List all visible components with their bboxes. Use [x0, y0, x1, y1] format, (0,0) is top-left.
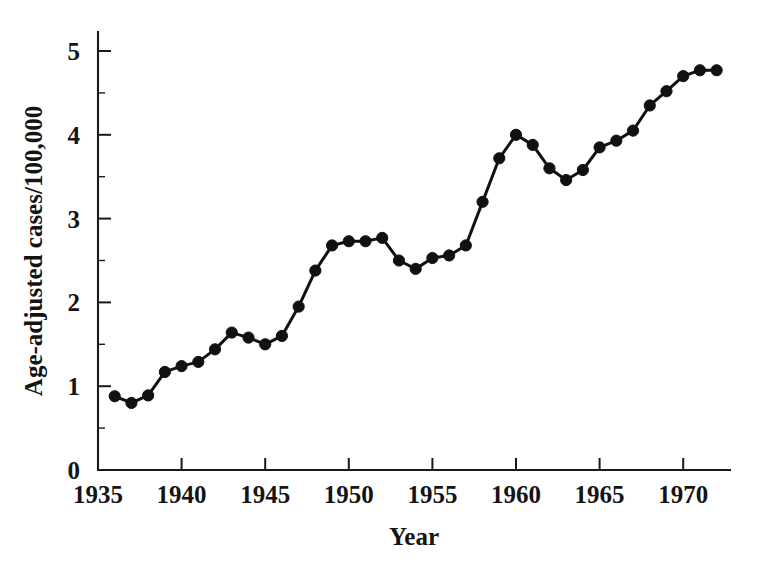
line-chart: 012345 19351940194519501955196019651970 …	[0, 0, 760, 566]
data-point	[510, 129, 521, 140]
y-tick-label: 3	[68, 206, 81, 233]
data-point	[126, 397, 137, 408]
data-point	[260, 339, 271, 350]
data-point	[577, 164, 588, 175]
data-point	[243, 332, 254, 343]
data-point	[143, 390, 154, 401]
y-axis-title: Age-adjusted cases/100,000	[20, 106, 47, 396]
axes	[98, 32, 730, 470]
data-point	[627, 125, 638, 136]
data-point	[360, 236, 371, 247]
data-point	[209, 344, 220, 355]
axis-spine	[98, 32, 730, 470]
data-point	[444, 250, 455, 261]
y-tick-label: 0	[68, 457, 81, 484]
data-point	[460, 240, 471, 251]
data-point	[410, 263, 421, 274]
data-point	[544, 163, 555, 174]
data-point	[644, 100, 655, 111]
data-point	[477, 196, 488, 207]
data-point	[561, 174, 572, 185]
data-point	[159, 366, 170, 377]
y-tick-labels: 012345	[68, 38, 81, 484]
series-line	[115, 70, 717, 403]
data-point	[527, 139, 538, 150]
data-point	[377, 232, 388, 243]
y-tick-label: 5	[68, 38, 81, 65]
data-point	[343, 236, 354, 247]
x-tick-label: 1940	[157, 481, 207, 508]
data-point	[310, 265, 321, 276]
x-tick-label: 1945	[240, 481, 290, 508]
data-point	[226, 327, 237, 338]
x-tick-label: 1950	[324, 481, 374, 508]
data-point	[427, 252, 438, 263]
data-point	[193, 356, 204, 367]
x-tick-label: 1960	[491, 481, 541, 508]
data-markers	[109, 65, 722, 409]
x-tick-label: 1935	[73, 481, 123, 508]
data-point	[393, 255, 404, 266]
axis-ticks	[98, 51, 683, 470]
data-point	[611, 135, 622, 146]
data-point	[594, 142, 605, 153]
data-point	[109, 391, 120, 402]
y-tick-label: 1	[68, 373, 81, 400]
x-axis-title: Year	[389, 523, 439, 550]
x-tick-label: 1970	[658, 481, 708, 508]
data-point	[326, 240, 337, 251]
data-point	[694, 65, 705, 76]
x-tick-label: 1955	[407, 481, 457, 508]
x-tick-labels: 19351940194519501955196019651970	[73, 481, 708, 508]
x-tick-label: 1965	[575, 481, 625, 508]
y-tick-label: 4	[68, 122, 81, 149]
data-series	[115, 70, 717, 403]
data-point	[711, 65, 722, 76]
data-point	[293, 301, 304, 312]
data-point	[494, 153, 505, 164]
data-point	[276, 330, 287, 341]
y-tick-label: 2	[68, 289, 81, 316]
chart-figure: 012345 19351940194519501955196019651970 …	[0, 0, 760, 566]
data-point	[661, 86, 672, 97]
data-point	[678, 71, 689, 82]
data-point	[176, 360, 187, 371]
